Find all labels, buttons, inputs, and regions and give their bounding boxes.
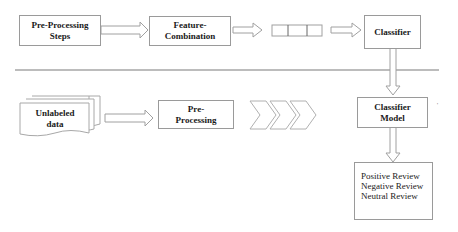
classifier-box: Classifier xyxy=(364,15,421,49)
preprocessing-steps-line2: Steps xyxy=(50,31,71,42)
classifier-label: Classifier xyxy=(374,27,411,38)
preprocessing-steps-box: Pre-Processing Steps xyxy=(19,15,101,46)
arrow-right-icon xyxy=(101,22,148,38)
feature-combination-line2: Combination xyxy=(165,31,216,42)
arrow-right-icon xyxy=(105,110,153,126)
preprocessing-steps-line1: Pre-Processing xyxy=(31,20,88,31)
results-list: Positive Review Negative Review Neutral … xyxy=(361,171,423,201)
feature-combination-line1: Feature- xyxy=(174,20,207,31)
stray-mark: ' xyxy=(437,102,438,108)
result-neutral: Neutral Review xyxy=(361,191,423,201)
unlabeled-data-line1: Unlabeled xyxy=(22,108,88,119)
arrow-right-icon xyxy=(233,23,262,37)
classifier-model-box: Classifier Model xyxy=(357,97,428,128)
unlabeled-data-line2: data xyxy=(22,119,88,130)
preprocessing-line1: Pre- xyxy=(188,104,204,115)
arrow-right-icon xyxy=(331,23,361,37)
feature-vector-icon xyxy=(272,25,322,36)
classifier-model-line1: Classifier xyxy=(374,102,411,113)
chevron-process-icon xyxy=(250,101,316,129)
unlabeled-data-label: Unlabeled data xyxy=(22,108,88,130)
arrow-down-icon xyxy=(386,127,400,162)
feature-combination-box: Feature- Combination xyxy=(149,16,231,46)
result-negative: Negative Review xyxy=(361,181,423,191)
arrow-down-icon xyxy=(386,48,400,95)
result-positive: Positive Review xyxy=(361,171,423,181)
preprocessing-line2: Processing xyxy=(176,115,217,126)
preprocessing-box: Pre- Processing xyxy=(158,100,234,129)
classifier-model-line2: Model xyxy=(380,113,405,124)
